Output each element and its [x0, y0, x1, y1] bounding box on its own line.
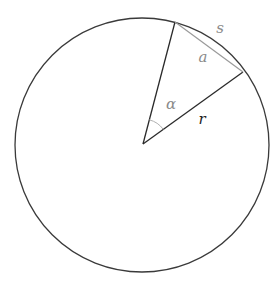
chord-line	[175, 22, 243, 72]
arc-length-label: s	[216, 19, 224, 37]
angle-arc	[149, 120, 163, 130]
angle-label: α	[166, 95, 176, 113]
radius-line-lower	[143, 72, 243, 144]
chord-label: a	[199, 48, 208, 66]
radius-line-upper	[143, 22, 175, 144]
radius-label: r	[198, 110, 206, 128]
sector-diagram: s a α r	[0, 0, 279, 289]
circle-outline	[15, 18, 269, 272]
